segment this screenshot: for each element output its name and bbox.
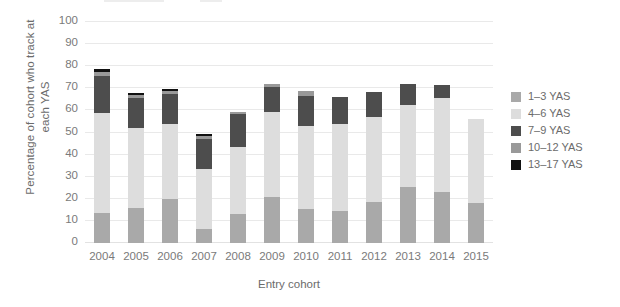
bar-group-2007[interactable] (196, 134, 212, 243)
y-tick-label-90: 90 (65, 37, 78, 49)
bar-segment[interactable] (434, 85, 450, 98)
bar-segment[interactable] (94, 76, 110, 112)
bar-segment[interactable] (230, 214, 246, 243)
y-axis-title-line2: each YAS (39, 82, 51, 133)
bar-segment[interactable] (332, 97, 348, 124)
bar-segment[interactable] (128, 128, 144, 208)
plot-area: 0102030405060708090100 20042005200620072… (85, 22, 493, 243)
bars-container (85, 22, 493, 243)
bar-segment[interactable] (434, 98, 450, 192)
legend-swatch-icon (511, 143, 521, 153)
x-axis-title: Entry cohort (85, 278, 493, 290)
x-tick-label-2014: 2014 (429, 250, 455, 262)
bar-segment[interactable] (196, 139, 212, 169)
y-tick-label-40: 40 (65, 148, 78, 160)
bar-group-2014[interactable] (434, 85, 450, 243)
bar-segment[interactable] (298, 209, 314, 243)
x-tick-label-2011: 2011 (328, 250, 353, 262)
y-axis-title: Percentage of cohort who track at each Y… (23, 0, 53, 217)
bar-segment[interactable] (468, 203, 484, 243)
bar-segment[interactable] (196, 169, 212, 229)
cropped-title-remnant (96, 0, 296, 4)
bar-segment[interactable] (128, 98, 144, 128)
stacked-bar-chart: Percentage of cohort who track at each Y… (0, 0, 620, 307)
x-tick-label-2005: 2005 (123, 250, 149, 262)
legend-label: 7–9 YAS (528, 125, 570, 136)
legend-swatch-icon (511, 126, 521, 136)
legend-item[interactable]: 7–9 YAS (511, 122, 601, 139)
y-tick-label-50: 50 (65, 126, 78, 138)
y-tick-label-0: 0 (72, 236, 78, 248)
bar-segment[interactable] (264, 87, 280, 111)
bar-segment[interactable] (468, 119, 484, 203)
y-tick-label-30: 30 (65, 170, 78, 182)
bar-group-2004[interactable] (94, 69, 110, 243)
legend-label: 10–12 YAS (528, 142, 583, 153)
y-tick-label-80: 80 (65, 59, 78, 71)
x-tick-label-2015: 2015 (463, 250, 489, 262)
bar-segment[interactable] (94, 213, 110, 243)
x-tick-label-2007: 2007 (191, 250, 217, 262)
bar-segment[interactable] (332, 211, 348, 243)
bar-segment[interactable] (400, 84, 416, 105)
y-tick-label-20: 20 (65, 192, 78, 204)
x-tick-label-2010: 2010 (293, 250, 319, 262)
bar-group-2005[interactable] (128, 93, 144, 243)
bar-segment[interactable] (298, 96, 314, 126)
x-tick-label-2008: 2008 (225, 250, 251, 262)
legend-item[interactable]: 13–17 YAS (511, 156, 601, 173)
bar-segment[interactable] (162, 199, 178, 243)
bar-segment[interactable] (298, 126, 314, 209)
bar-group-2008[interactable] (230, 112, 246, 243)
bar-group-2015[interactable] (468, 119, 484, 243)
bar-segment[interactable] (196, 229, 212, 243)
y-tick-label-60: 60 (65, 104, 78, 116)
bar-segment[interactable] (264, 112, 280, 197)
y-axis-title-line1: Percentage of cohort who track at (24, 19, 36, 194)
bar-segment[interactable] (162, 124, 178, 199)
x-tick-label-2009: 2009 (259, 250, 285, 262)
legend-swatch-icon (511, 160, 521, 170)
legend-swatch-icon (511, 92, 521, 102)
bar-segment[interactable] (366, 117, 382, 202)
bar-segment[interactable] (366, 92, 382, 117)
y-tick-label-10: 10 (65, 214, 78, 226)
legend-item[interactable]: 4–6 YAS (511, 105, 601, 122)
bar-segment[interactable] (434, 192, 450, 243)
legend-label: 4–6 YAS (528, 108, 570, 119)
x-tick-label-2013: 2013 (395, 250, 421, 262)
legend-label: 1–3 YAS (528, 91, 570, 102)
x-tick-label-2004: 2004 (89, 250, 115, 262)
legend-item[interactable]: 10–12 YAS (511, 139, 601, 156)
bar-segment[interactable] (264, 197, 280, 243)
bar-segment[interactable] (162, 94, 178, 124)
bar-segment[interactable] (230, 114, 246, 147)
bar-group-2010[interactable] (298, 91, 314, 243)
bar-segment[interactable] (128, 208, 144, 243)
bar-group-2012[interactable] (366, 92, 382, 243)
bar-group-2006[interactable] (162, 89, 178, 243)
bar-group-2013[interactable] (400, 84, 416, 243)
legend-swatch-icon (511, 109, 521, 119)
y-tick-label-100: 100 (59, 15, 78, 27)
bar-segment[interactable] (230, 147, 246, 214)
bar-segment[interactable] (366, 202, 382, 243)
bar-segment[interactable] (400, 187, 416, 243)
x-tick-label-2006: 2006 (157, 250, 183, 262)
x-tick-label-2012: 2012 (361, 250, 387, 262)
bar-segment[interactable] (400, 105, 416, 187)
bar-segment[interactable] (332, 124, 348, 211)
bar-group-2009[interactable] (264, 84, 280, 243)
bar-group-2011[interactable] (332, 97, 348, 243)
legend-label: 13–17 YAS (528, 159, 583, 170)
bar-segment[interactable] (94, 113, 110, 214)
y-tick-label-70: 70 (65, 82, 78, 94)
legend-item[interactable]: 1–3 YAS (511, 88, 601, 105)
chart-legend: 1–3 YAS4–6 YAS7–9 YAS10–12 YAS13–17 YAS (505, 82, 605, 179)
